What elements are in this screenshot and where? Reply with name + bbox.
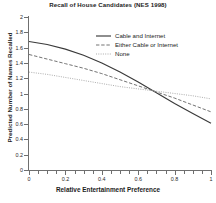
legend-label: None [115, 49, 130, 58]
chart-figure: Recall of House Candidates (NES 1998) Pr… [0, 0, 216, 203]
legend-item: None [96, 49, 178, 58]
series-line [29, 72, 211, 99]
legend-key-icon [96, 41, 111, 49]
chart-legend: Cable and InternetEither Cable or Intern… [96, 31, 178, 58]
legend-key-icon [96, 50, 111, 58]
legend-label: Cable and Internet [115, 31, 165, 40]
legend-key-icon [96, 32, 111, 40]
legend-label: Either Cable or Internet [115, 40, 178, 49]
series-line [29, 54, 211, 111]
legend-item: Either Cable or Internet [96, 40, 178, 49]
legend-item: Cable and Internet [96, 31, 178, 40]
